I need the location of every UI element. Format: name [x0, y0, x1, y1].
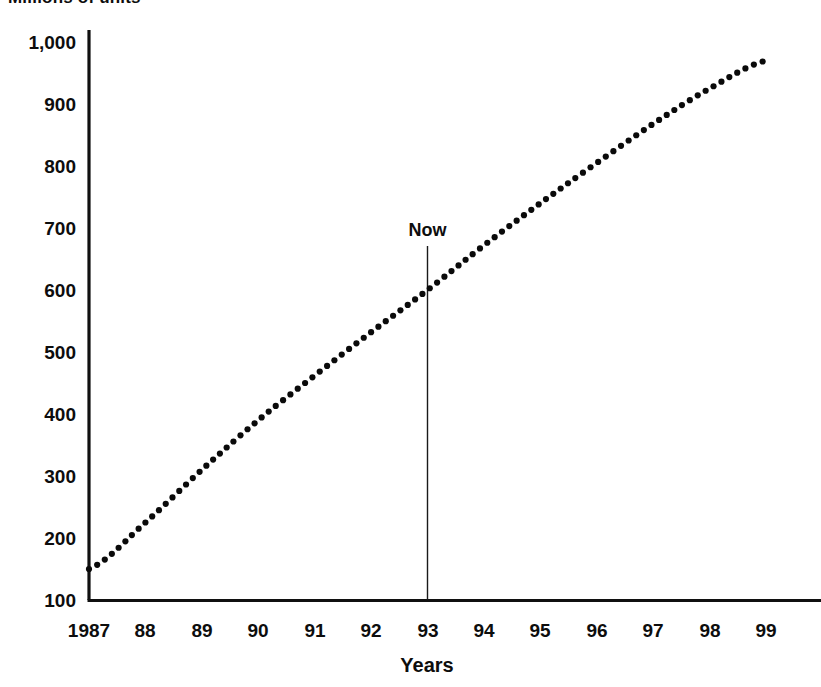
data-point [470, 251, 476, 257]
x-tick-label: 92 [360, 620, 381, 641]
data-point [434, 279, 440, 285]
y-tick-label: 600 [44, 280, 76, 301]
x-tick-label: 91 [304, 620, 326, 641]
data-point [368, 329, 374, 335]
data-point [397, 307, 403, 313]
data-point [543, 196, 549, 202]
data-point [149, 513, 155, 519]
data-point [346, 346, 352, 352]
data-point [230, 438, 236, 444]
x-tick-label: 95 [529, 620, 551, 641]
chart-container: Millions of units 1,000 900 800 700 600 … [0, 0, 821, 687]
x-axis-title: Years [400, 654, 453, 676]
x-axis-tick-labels: 1987 88 89 90 91 92 93 94 95 96 97 98 99 [68, 620, 777, 641]
data-point [86, 566, 92, 572]
data-point [412, 296, 418, 302]
data-point [94, 562, 100, 568]
data-point [587, 164, 593, 170]
data-point [633, 132, 639, 138]
data-point [266, 409, 272, 415]
y-tick-label: 800 [44, 156, 76, 177]
data-point [251, 420, 257, 426]
data-point [595, 159, 601, 165]
data-point [427, 285, 433, 291]
data-point [656, 117, 662, 123]
data-point [295, 386, 301, 392]
x-tick-label: 96 [586, 620, 607, 641]
y-tick-label: 400 [44, 404, 76, 425]
data-point [536, 201, 542, 207]
data-point [196, 469, 202, 475]
data-point [102, 556, 108, 562]
data-point [273, 403, 279, 409]
data-point [353, 340, 359, 346]
y-tick-label: 100 [44, 590, 76, 611]
data-point [641, 127, 647, 133]
data-point [224, 444, 230, 450]
data-point [718, 79, 724, 85]
data-point [237, 432, 243, 438]
data-series-dots [86, 58, 766, 572]
x-tick-label: 99 [755, 620, 776, 641]
data-point [679, 102, 685, 108]
data-point [448, 268, 454, 274]
data-point [565, 180, 571, 186]
data-point [129, 532, 135, 538]
data-point [163, 501, 169, 507]
axes [88, 30, 821, 601]
data-point [324, 363, 330, 369]
data-point [217, 450, 223, 456]
data-point [664, 112, 670, 118]
data-point [580, 170, 586, 176]
y-tick-label: 300 [44, 466, 76, 487]
data-point [190, 475, 196, 481]
data-point [176, 488, 182, 494]
x-tick-label: 88 [134, 620, 155, 641]
data-point [259, 414, 265, 420]
data-point [361, 335, 367, 341]
x-tick-label: 94 [473, 620, 495, 641]
data-point [302, 380, 308, 386]
x-tick-label: 93 [417, 620, 438, 641]
data-point [280, 397, 286, 403]
data-point [648, 122, 654, 128]
chart-plot-area: 1,000 900 800 700 600 500 400 300 200 10… [0, 0, 821, 687]
data-point [610, 148, 616, 154]
data-point [742, 65, 748, 71]
data-point [626, 137, 632, 143]
data-point [760, 58, 766, 64]
data-point [703, 88, 709, 94]
data-point [383, 318, 389, 324]
data-point [441, 274, 447, 280]
data-point [156, 507, 162, 513]
data-point [514, 218, 520, 224]
data-point [419, 291, 425, 297]
data-point [671, 107, 677, 113]
data-point [550, 191, 556, 197]
x-tick-label: 89 [191, 620, 212, 641]
y-tick-label: 700 [44, 218, 76, 239]
data-point [287, 391, 293, 397]
data-point [309, 374, 315, 380]
data-point [317, 369, 323, 375]
data-point [183, 481, 189, 487]
data-point [210, 457, 216, 463]
data-point [558, 185, 564, 191]
y-axis-tick-labels: 1,000 900 800 700 600 500 400 300 200 10… [28, 32, 76, 611]
data-point [142, 519, 148, 525]
data-point [109, 551, 115, 557]
data-point [390, 313, 396, 319]
x-tick-label: 98 [699, 620, 720, 641]
data-point [726, 74, 732, 80]
data-point [203, 463, 209, 469]
data-point [455, 262, 461, 268]
y-tick-label: 900 [44, 94, 76, 115]
data-point [375, 324, 381, 330]
data-point [339, 351, 345, 357]
data-point [462, 257, 468, 263]
data-point [169, 494, 175, 500]
data-point [499, 229, 505, 235]
data-point [136, 526, 142, 532]
y-tick-label: 1,000 [28, 32, 76, 53]
y-tick-label: 500 [44, 342, 76, 363]
